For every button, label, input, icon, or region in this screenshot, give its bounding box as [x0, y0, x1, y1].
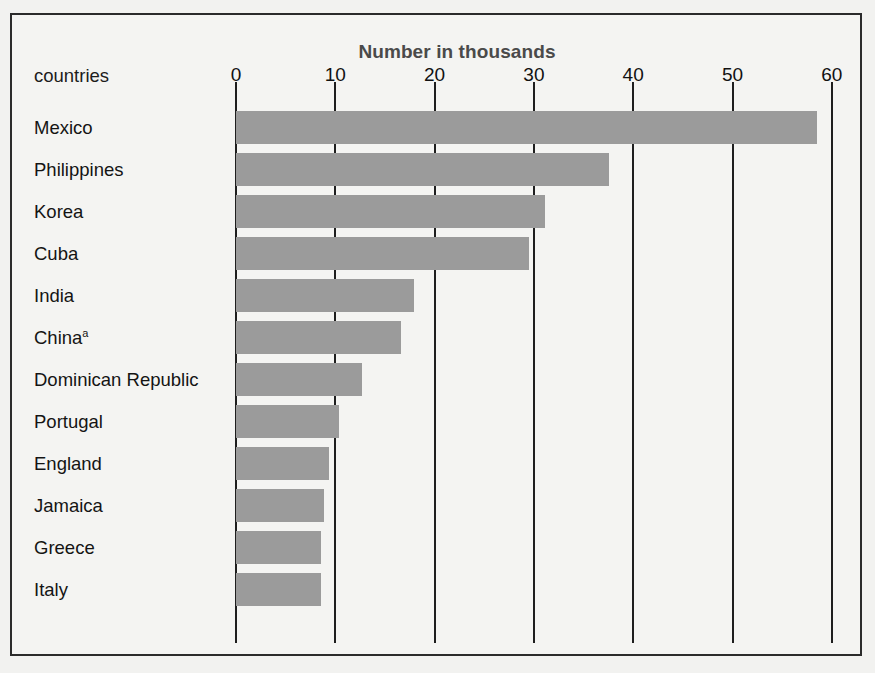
bar-portugal [236, 405, 339, 438]
bar-italy [236, 573, 321, 606]
category-label-greece: Greece [34, 537, 95, 559]
category-label-cuba: Cuba [34, 243, 78, 265]
category-label-philippines: Philippines [34, 159, 123, 181]
bar-england [236, 447, 329, 480]
bar-greece [236, 531, 321, 564]
footnote-marker: a [82, 327, 88, 339]
bar-jamaica [236, 489, 324, 522]
category-label-dominican-republic: Dominican Republic [34, 369, 199, 391]
plot-area: 0102030405060 MexicoPhilippinesKoreaCuba… [12, 15, 860, 654]
bar-cuba [236, 237, 529, 270]
category-label-india: India [34, 285, 74, 307]
figure-footnote [10, 662, 510, 673]
category-label-jamaica: Jamaica [34, 495, 103, 517]
category-label-italy: Italy [34, 579, 68, 601]
category-label-england: England [34, 453, 102, 475]
bar-korea [236, 195, 545, 228]
gridline-60 [831, 82, 833, 643]
bar-philippines [236, 153, 609, 186]
bar-india [236, 279, 414, 312]
category-label-mexico: Mexico [34, 117, 93, 139]
bar-mexico [236, 111, 817, 144]
bar-china [236, 321, 401, 354]
category-label-china: Chinaa [34, 327, 88, 349]
category-label-korea: Korea [34, 201, 83, 223]
category-label-portugal: Portugal [34, 411, 103, 433]
bar-dominican-republic [236, 363, 362, 396]
chart-frame: Number in thousands countries 0102030405… [10, 13, 862, 656]
gridline-50 [732, 82, 734, 643]
gridline-40 [632, 82, 634, 643]
